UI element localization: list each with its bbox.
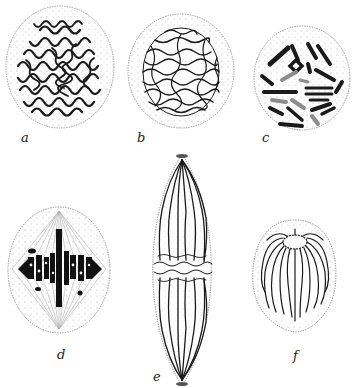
panel-c-chromosomes	[252, 24, 352, 132]
panel-e-anaphase	[140, 152, 224, 388]
cell-c-illustration	[252, 24, 352, 132]
panel-label-c: c	[262, 131, 269, 144]
cell-e-illustration	[140, 152, 224, 388]
panel-f-telophase	[251, 218, 339, 334]
panel-label-d: d	[57, 348, 65, 361]
panel-label-f: f	[293, 349, 298, 362]
panel-a-chromatin-network	[4, 4, 116, 130]
panel-label-a: a	[21, 131, 29, 144]
cell-d-illustration	[6, 205, 112, 335]
cell-a-illustration	[4, 4, 116, 130]
panel-label-b: b	[137, 131, 145, 144]
cell-f-illustration	[251, 218, 339, 334]
panel-label-e: e	[153, 370, 161, 383]
cell-b-illustration	[125, 12, 237, 130]
panel-d-metaphase	[6, 205, 112, 335]
panel-b-spireme	[125, 12, 237, 130]
